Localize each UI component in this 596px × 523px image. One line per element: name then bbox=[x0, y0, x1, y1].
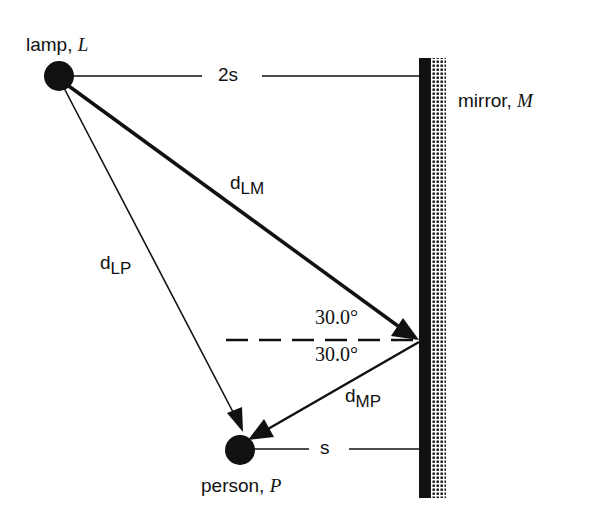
incident-angle-label: 30.0° bbox=[315, 306, 358, 329]
person-label: person, P bbox=[201, 475, 281, 497]
lamp-label: lamp, L bbox=[26, 34, 88, 56]
diagram-canvas bbox=[0, 0, 596, 523]
ray-lamp-to-person bbox=[64, 88, 243, 432]
distance-s-label: s bbox=[320, 437, 330, 459]
d-lm-label: dLM bbox=[230, 172, 264, 194]
mirror bbox=[419, 58, 446, 498]
reflected-angle-label: 30.0° bbox=[315, 343, 358, 366]
d-mp-label: dMP bbox=[345, 385, 381, 407]
distance-2s-label: 2s bbox=[218, 64, 238, 86]
mirror-backing bbox=[432, 58, 446, 498]
mirror-surface bbox=[419, 58, 431, 498]
arrowhead-icon bbox=[391, 318, 419, 340]
ray-lamp-to-mirror bbox=[66, 84, 419, 340]
arrowhead-icon bbox=[248, 419, 274, 440]
mirror-label: mirror, M bbox=[458, 90, 533, 112]
person-dot bbox=[225, 435, 255, 465]
lamp-dot bbox=[44, 61, 74, 91]
d-lp-label: dLP bbox=[100, 252, 131, 274]
arrowhead-icon bbox=[227, 407, 243, 432]
